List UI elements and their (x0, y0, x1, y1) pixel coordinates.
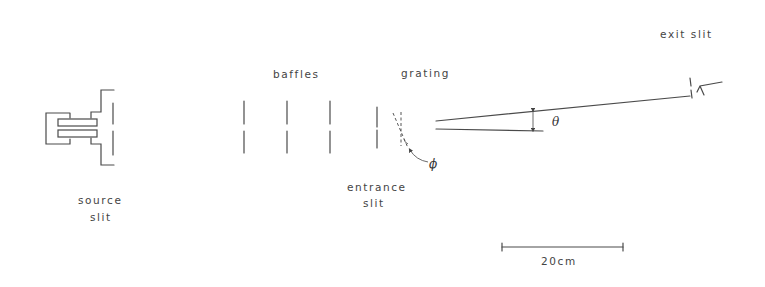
grating-label: grating (401, 67, 450, 79)
exit-slit-lower (691, 90, 692, 98)
source-assembly (46, 90, 114, 165)
phi-symbol: ϕ (429, 157, 437, 171)
spectrometer-diagram: source slit baffles entrance slit gratin… (0, 0, 765, 287)
scale-bar (502, 243, 623, 251)
source-bar-upper (58, 119, 97, 126)
baffles-label: baffles (273, 68, 320, 80)
grating (393, 112, 428, 162)
reference-beam (436, 129, 543, 131)
source-label: source (78, 194, 122, 206)
entrance-label: entrance (347, 181, 407, 193)
scale-bar-label: 20cm (541, 255, 577, 267)
exit-slit (690, 78, 722, 98)
baffles (244, 101, 330, 153)
exit-slit-label: exit slit (660, 28, 713, 40)
source-housing-outline (46, 113, 70, 144)
source-slit-label: slit (90, 211, 112, 223)
exit-detector (697, 82, 722, 95)
source-flange (91, 90, 114, 165)
phi-arrow (410, 150, 428, 162)
exit-slit-upper (690, 78, 691, 86)
source-bar-lower (58, 130, 97, 137)
theta-symbol: θ (552, 115, 560, 129)
diffracted-beam (436, 96, 690, 121)
entrance-slit-label: slit (363, 197, 385, 209)
beam-paths (436, 96, 690, 131)
